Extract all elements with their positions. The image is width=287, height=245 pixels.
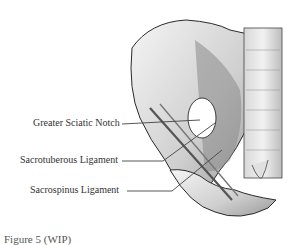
figure-caption: Figure 5 (WIP) — [4, 233, 71, 245]
label-sacrospinus-ligament: Sacrospinus Ligament — [30, 184, 119, 195]
label-sacrotuberous-ligament: Sacrotuberous Ligament — [20, 154, 118, 165]
label-greater-sciatic-notch: Greater Sciatic Notch — [33, 117, 120, 128]
